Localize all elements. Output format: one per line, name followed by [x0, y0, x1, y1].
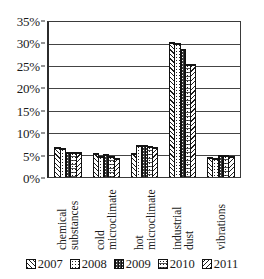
x-axis-label-line: industrial — [171, 207, 183, 250]
x-axis-label: hotmicroclimate — [132, 180, 158, 250]
bar — [152, 147, 158, 177]
bar-group — [202, 21, 240, 177]
legend-item[interactable]: 2010 — [158, 258, 195, 271]
legend-swatch-icon — [202, 259, 212, 269]
bar-group — [49, 21, 87, 177]
bar — [114, 158, 120, 177]
x-axis-label-line: hot — [132, 189, 144, 250]
y-tick-mark-20 — [41, 88, 45, 89]
bar-chart: 35% 30% 25% 20% 15% 10% 5% 0% chemicalsu… — [0, 0, 264, 279]
bar — [190, 64, 196, 177]
y-tick-mark-0 — [41, 178, 45, 179]
x-axis-label-line: dust — [183, 207, 195, 250]
legend-item[interactable]: 2011 — [202, 258, 239, 271]
x-axis-label-line: cold — [94, 189, 106, 250]
bar-group — [164, 21, 202, 177]
y-tick-label-15: 15% — [17, 104, 40, 117]
bar — [76, 152, 82, 177]
y-tick-label-25: 25% — [17, 59, 40, 72]
y-tick-label-30: 30% — [17, 37, 40, 50]
x-axis-label: vibrations — [214, 180, 228, 250]
legend-swatch-icon — [26, 259, 36, 269]
y-tick-mark-15 — [41, 110, 45, 111]
legend-label: 2010 — [170, 258, 195, 271]
legend-item[interactable]: 2008 — [70, 258, 107, 271]
x-axis-label-line: microclimate — [145, 189, 157, 250]
x-axis-label-line: vibrations — [215, 204, 227, 250]
legend-label: 2008 — [82, 258, 107, 271]
y-tick-mark-35 — [41, 21, 45, 22]
legend-swatch-icon — [70, 259, 80, 269]
y-tick-mark-30 — [41, 43, 45, 44]
legend-label: 2009 — [126, 258, 151, 271]
y-tick-mark-5 — [41, 155, 45, 156]
legend-swatch-icon — [158, 259, 168, 269]
y-tick-mark-25 — [41, 65, 45, 66]
x-axis-label-line: microclimate — [106, 189, 118, 250]
bar-group — [87, 21, 125, 177]
y-tick-label-20: 20% — [17, 82, 40, 95]
x-axis-label-line: substances — [68, 201, 80, 250]
legend-label: 2007 — [38, 258, 63, 271]
legend-label: 2011 — [214, 258, 239, 271]
bar-groups — [49, 21, 240, 177]
y-tick-label-10: 10% — [17, 127, 40, 140]
bar-group — [125, 21, 163, 177]
x-axis-label: industrialdust — [170, 180, 196, 250]
x-axis-label: chemicalsubstances — [55, 180, 81, 250]
y-tick-mark-10 — [41, 133, 45, 134]
y-tick-label-5: 5% — [23, 149, 40, 162]
legend-item[interactable]: 2009 — [114, 258, 151, 271]
y-axis: 35% 30% 25% 20% 15% 10% 5% 0% — [0, 21, 45, 178]
chart-legend: 20072008200920102011 — [0, 258, 264, 271]
y-tick-label-35: 35% — [17, 15, 40, 28]
x-axis-labels: chemicalsubstancescoldmicroclimatehotmic… — [49, 180, 240, 252]
bar — [228, 156, 234, 177]
x-axis-label-line: chemical — [56, 201, 68, 250]
x-axis-label: coldmicroclimate — [93, 180, 119, 250]
y-tick-label-0: 0% — [23, 172, 40, 185]
legend-item[interactable]: 2007 — [26, 258, 63, 271]
legend-swatch-icon — [114, 259, 124, 269]
